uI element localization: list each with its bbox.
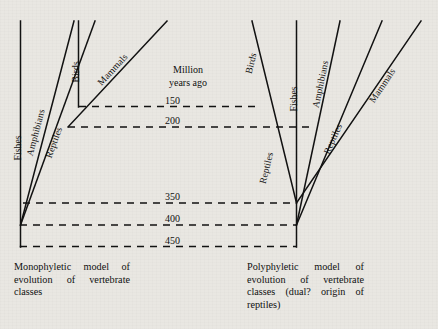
tick-label-150: 150: [165, 95, 180, 106]
left-label-fishes: Fishes: [12, 135, 23, 160]
tick-label-450: 450: [165, 235, 180, 246]
scale-heading-line2: years ago: [148, 77, 228, 90]
evolution-diagram-figure: Million years ago 150 200 350 400 450 Fi…: [0, 0, 438, 329]
left-amphibians-line: [21, 21, 75, 225]
left-label-birds: Birds: [70, 61, 81, 82]
tick-label-400: 400: [165, 213, 180, 224]
scale-heading: Million years ago: [148, 64, 228, 89]
tick-label-200: 200: [165, 115, 180, 126]
right-model-caption: Polyphyletic model of evolution of verte…: [247, 261, 364, 311]
left-model-caption: Monophyletic model of evolution of verte…: [14, 261, 130, 299]
tick-label-350: 350: [165, 191, 180, 202]
right-mammals-line: [297, 21, 422, 203]
right-label-fishes: Fishes: [288, 86, 299, 111]
scale-heading-line1: Million: [148, 64, 228, 77]
right-reptiles-line: [297, 21, 383, 225]
